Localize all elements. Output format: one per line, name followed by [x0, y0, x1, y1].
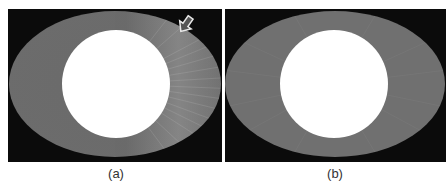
- caption-b: (b): [315, 166, 355, 181]
- image-panel-a: [8, 9, 222, 162]
- bright-insert: [280, 30, 388, 138]
- caption-a: (a): [96, 166, 136, 181]
- bright-insert: [62, 30, 170, 138]
- ct-image-b: [225, 9, 446, 162]
- ct-image-a: [8, 9, 222, 162]
- image-panel-b: [225, 9, 446, 162]
